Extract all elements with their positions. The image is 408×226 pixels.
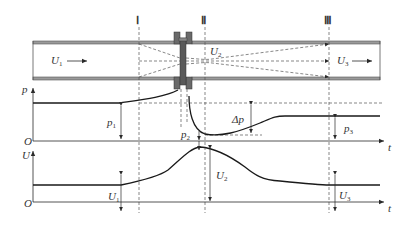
pipe-label-u1: U1 bbox=[51, 55, 62, 68]
delta-p-label: Δp bbox=[232, 114, 244, 125]
velocity-time-axis-label: t bbox=[388, 203, 391, 214]
section-label-iii: Ⅲ bbox=[324, 15, 332, 26]
section-label-i: Ⅰ bbox=[136, 15, 139, 26]
velocity-origin-label: O bbox=[24, 198, 32, 209]
pipe-label-u3: U3 bbox=[337, 55, 348, 68]
p2-label: p2 bbox=[181, 129, 190, 142]
pressure-chart bbox=[33, 88, 384, 141]
pipe-label-u2: U2 bbox=[210, 46, 221, 59]
pressure-time-axis-label: t bbox=[388, 142, 391, 153]
u3-label: U3 bbox=[339, 190, 350, 203]
pressure-origin-label: O bbox=[24, 136, 32, 147]
section-label-ii: Ⅱ bbox=[201, 15, 206, 26]
p3-label: p3 bbox=[344, 123, 353, 136]
u1-label: U1 bbox=[108, 191, 119, 204]
p1-label: p1 bbox=[107, 117, 116, 130]
u2-label: U2 bbox=[216, 170, 227, 183]
velocity-chart bbox=[33, 141, 384, 211]
orifice-plate bbox=[174, 32, 192, 89]
pressure-axis-label: p bbox=[22, 84, 28, 95]
streamlines bbox=[139, 44, 329, 77]
velocity-axis-label: U bbox=[22, 150, 30, 161]
pipe bbox=[33, 41, 380, 80]
orifice-flow-diagram: Ⅰ Ⅱ Ⅲ U1 U2 U3 p O t p1 p2 Δp p3 U O t U… bbox=[0, 0, 408, 226]
